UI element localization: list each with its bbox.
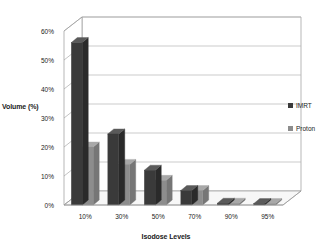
x-tick-90: 90% [225, 213, 238, 220]
square-swatch-dark-icon [288, 103, 293, 108]
legend-label: IMRT [296, 102, 312, 109]
x-tick-95: 95% [261, 213, 274, 220]
x-tick-70: 70% [188, 213, 201, 220]
legend-item-proton[interactable]: Proton [288, 125, 332, 132]
x-axis-tick-labels: 10%30%50%70%90%95% [0, 0, 332, 250]
x-tick-50: 50% [152, 213, 165, 220]
x-axis-label: Isodose Levels [0, 233, 332, 240]
x-tick-30: 30% [115, 213, 128, 220]
x-tick-10: 10% [79, 213, 92, 220]
square-swatch-gray-icon [288, 126, 293, 131]
bar-chart: Volume (%) 0%10%20%30%40%50%60% 10%30%50… [0, 0, 332, 250]
chart-legend: IMRTProton [288, 102, 332, 148]
legend-label: Proton [296, 125, 315, 132]
legend-item-imrt[interactable]: IMRT [288, 102, 332, 109]
